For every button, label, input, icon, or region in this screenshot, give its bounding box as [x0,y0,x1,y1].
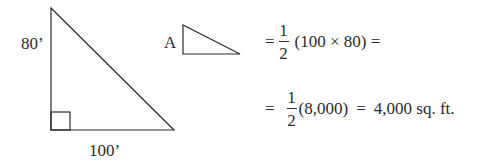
vertical-side-label: 80’ [21,35,44,52]
equation-line-2: = 1 2 (8,000) = 4,000 sq. ft. [265,89,455,129]
equals-sign: = [356,99,366,119]
fraction-one-half: 1 2 [287,89,297,129]
fraction-numerator: 1 [279,22,288,41]
expression: (8,000) [299,99,349,119]
result: 4,000 sq. ft. [374,99,455,119]
equals-sign: = [265,99,275,119]
horizontal-side-label: 100’ [89,142,120,159]
expression: (100 × 80) = [295,32,381,52]
fraction-denominator: 2 [279,42,288,62]
large-right-triangle [51,8,174,130]
small-triangle-a [183,25,240,54]
triangle-diagram [0,0,477,163]
fraction-denominator: 2 [287,109,296,129]
small-triangle-label: A [164,34,176,51]
equals-sign: = [265,32,275,52]
fraction-numerator: 1 [287,89,296,108]
right-angle-marker [51,112,70,130]
equation-line-1: = 1 2 (100 × 80) = [265,22,380,62]
fraction-one-half: 1 2 [279,22,289,62]
